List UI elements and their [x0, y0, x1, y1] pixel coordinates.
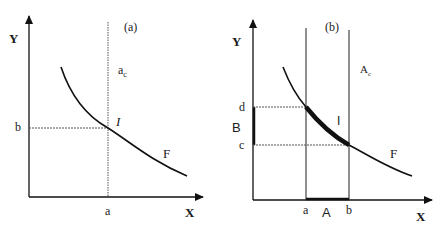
panel-a: Y X (a) a b ac I F	[9, 16, 203, 220]
curve-label-f: F	[390, 146, 397, 161]
region-label: Ac	[360, 63, 371, 78]
x-axis-label: X	[185, 205, 195, 220]
diagram-canvas: Y X (a) a b ac I F Y X (b) a b d c A B A…	[0, 0, 443, 233]
y-tick-d: d	[239, 100, 245, 114]
y-axis-label: Y	[232, 34, 242, 49]
y-interval-label-b: B	[232, 120, 241, 135]
panel-b: Y X (b) a b d c A B Ac I F	[232, 20, 432, 224]
x-tick-b: b	[346, 203, 352, 217]
x-axis-label: X	[416, 209, 426, 224]
x-interval-label-a: A	[322, 205, 331, 220]
panel-label: (b)	[325, 20, 339, 34]
point-label-i: I	[115, 114, 121, 129]
vertical-line-label: ac	[118, 63, 127, 79]
highlighted-segment-i	[306, 107, 349, 145]
x-tick-a: a	[303, 203, 309, 217]
y-axis-label: Y	[9, 31, 19, 46]
panel-label: (a)	[124, 20, 137, 34]
segment-label-i: I	[337, 114, 340, 128]
x-tick-a: a	[105, 204, 111, 218]
curve-label-f: F	[163, 146, 170, 161]
y-tick-c: c	[239, 138, 244, 152]
y-tick-b: b	[15, 120, 21, 134]
